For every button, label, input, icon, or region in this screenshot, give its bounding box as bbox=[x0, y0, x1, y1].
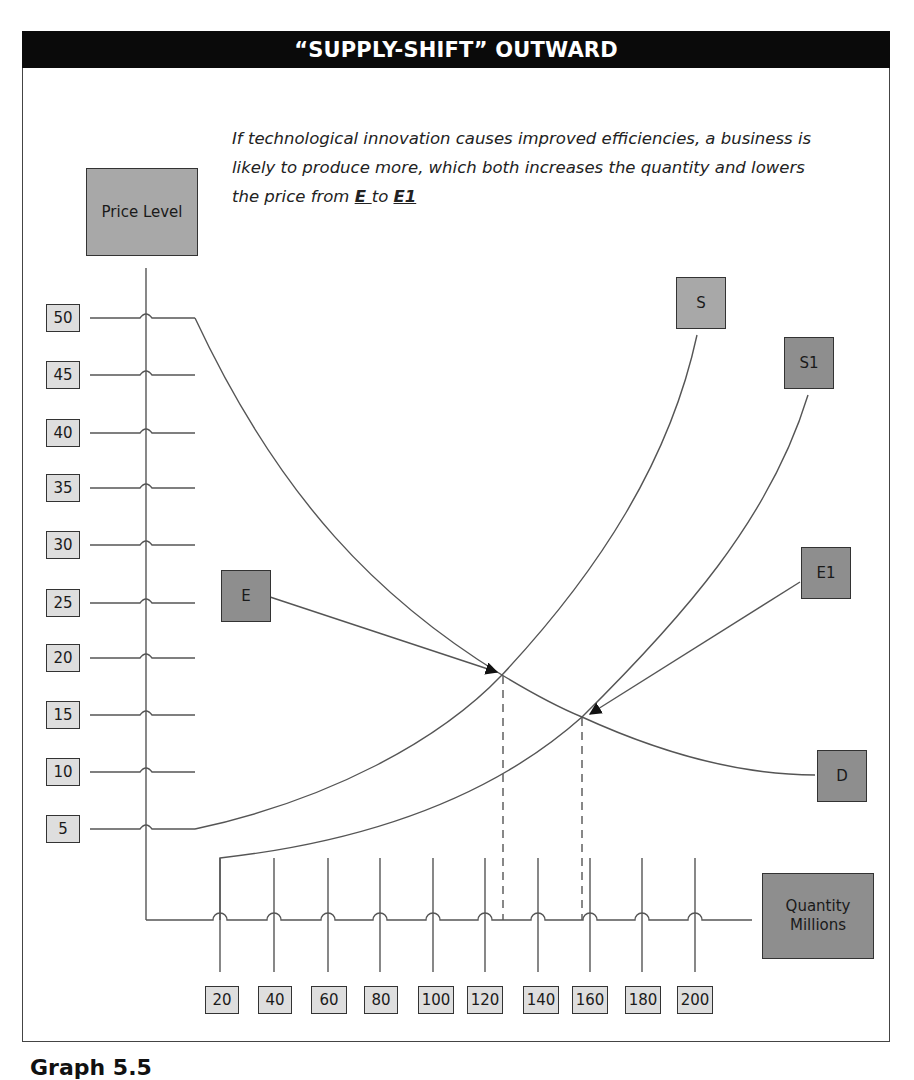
label-equilibrium-e1: E1 bbox=[801, 547, 851, 599]
y-tick-label: 50 bbox=[46, 304, 80, 332]
x-tick-label: 80 bbox=[364, 986, 398, 1014]
x-tick-label: 140 bbox=[523, 986, 559, 1014]
supply-curve-s1 bbox=[220, 395, 808, 920]
y-tick-lines bbox=[90, 314, 195, 829]
y-tick-label: 30 bbox=[46, 531, 80, 559]
label-demand-d: D bbox=[817, 750, 867, 802]
x-tick-label: 100 bbox=[418, 986, 454, 1014]
x-tick-label: 180 bbox=[625, 986, 661, 1014]
label-equilibrium-e: E bbox=[221, 570, 271, 622]
y-tick-label: 45 bbox=[46, 361, 80, 389]
x-tick-label: 160 bbox=[572, 986, 608, 1014]
y-tick-label: 35 bbox=[46, 474, 80, 502]
label-supply-s: S bbox=[676, 277, 726, 329]
y-tick-label: 25 bbox=[46, 589, 80, 617]
y-tick-label: 20 bbox=[46, 644, 80, 672]
y-tick-label: 10 bbox=[46, 758, 80, 786]
x-tick-label: 20 bbox=[205, 986, 239, 1014]
x-axis-line bbox=[146, 913, 752, 920]
e1-pointer-arrow bbox=[590, 582, 800, 714]
y-tick-label: 40 bbox=[46, 419, 80, 447]
figure-caption-clipped: Graph 5.5 bbox=[30, 1055, 152, 1080]
x-tick-label: 40 bbox=[258, 986, 292, 1014]
y-tick-label: 5 bbox=[46, 815, 80, 843]
x-axis-title: Quantity Millions bbox=[762, 873, 874, 959]
x-tick-label: 60 bbox=[311, 986, 347, 1014]
e-pointer-arrow bbox=[270, 597, 497, 672]
y-tick-label: 15 bbox=[46, 701, 80, 729]
x-tick-lines bbox=[220, 858, 695, 972]
y-axis-title: Price Level bbox=[86, 168, 198, 256]
x-tick-label: 200 bbox=[677, 986, 713, 1014]
label-supply-s1: S1 bbox=[784, 337, 834, 389]
x-tick-label: 120 bbox=[467, 986, 503, 1014]
demand-curve bbox=[195, 318, 815, 775]
